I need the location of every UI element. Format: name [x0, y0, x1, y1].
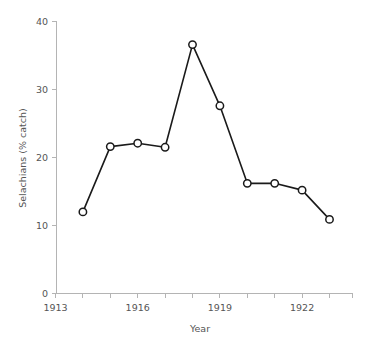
data-point — [326, 216, 333, 223]
x-tick-label: 1916 — [126, 302, 150, 313]
y-tick-label: 10 — [36, 220, 48, 231]
x-tick-label: 1913 — [43, 302, 67, 313]
data-point — [189, 41, 196, 48]
data-point — [79, 208, 86, 215]
data-point — [161, 144, 168, 151]
y-tick-label: 30 — [36, 84, 48, 95]
x-axis-title: Year — [189, 323, 210, 334]
x-tick-label: 1919 — [208, 302, 232, 313]
y-axis-title: Selachians (% catch) — [17, 108, 28, 208]
y-tick-label: 40 — [36, 16, 48, 27]
data-point — [271, 180, 278, 187]
data-point — [134, 140, 141, 147]
data-point — [107, 143, 114, 150]
chart-container: 40 30 20 10 0 1913 1916 1919 1922 — [0, 0, 371, 346]
y-tick-label: 0 — [42, 288, 48, 299]
y-tick-label: 20 — [36, 152, 48, 163]
line-chart: 40 30 20 10 0 1913 1916 1919 1922 — [0, 0, 371, 346]
x-tick-label: 1922 — [290, 302, 314, 313]
data-point — [216, 102, 223, 109]
data-point — [244, 180, 251, 187]
data-point — [298, 186, 305, 193]
